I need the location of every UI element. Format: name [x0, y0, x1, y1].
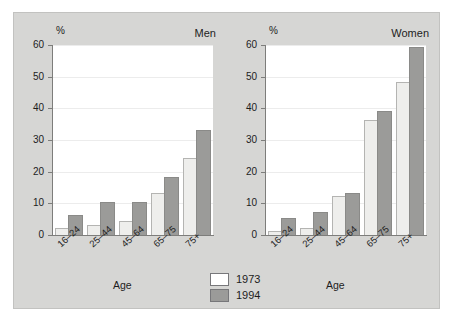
y-axis-tick-label: 30	[22, 134, 44, 145]
gridline	[53, 140, 213, 141]
gridline	[266, 77, 426, 78]
legend-label-1994: 1994	[236, 289, 260, 301]
y-axis-tick	[48, 235, 52, 236]
bar-men-75+-1994	[196, 130, 211, 236]
panel-men: % Men Age 010203040506016–2425–4445–6465…	[14, 13, 226, 308]
y-axis-tick-label: 60	[22, 39, 44, 50]
legend: 1973 1994	[210, 271, 260, 303]
y-axis-tick-label: 20	[22, 166, 44, 177]
legend-item-1994: 1994	[210, 287, 260, 303]
y-axis-tick	[261, 235, 265, 236]
y-axis-tick	[261, 45, 265, 46]
plot-area-men	[53, 45, 213, 235]
panel-title-women: Women	[391, 27, 429, 39]
legend-item-1973: 1973	[210, 271, 260, 287]
y-axis-tick	[48, 140, 52, 141]
x-axis-title-women: Age	[326, 279, 345, 291]
chart-card: % Men Age 010203040506016–2425–4445–6465…	[13, 12, 440, 309]
y-axis-tick	[261, 172, 265, 173]
y-axis-tick	[48, 172, 52, 173]
y-axis-tick	[48, 45, 52, 46]
gridline	[53, 108, 213, 109]
y-axis-tick-label: 50	[235, 71, 257, 82]
y-axis-tick-label: 50	[22, 71, 44, 82]
y-axis-tick	[261, 108, 265, 109]
y-axis-tick	[48, 77, 52, 78]
y-axis-tick	[261, 77, 265, 78]
y-axis-tick-label: 10	[235, 197, 257, 208]
y-axis-unit-women: %	[269, 25, 278, 36]
y-axis-tick-label: 0	[235, 229, 257, 240]
y-axis-tick-label: 40	[22, 102, 44, 113]
y-axis-spine-women	[265, 45, 266, 236]
x-axis-title-men: Age	[113, 279, 132, 291]
y-axis-tick	[48, 108, 52, 109]
panel-women: % Women Age 010203040506016–2425–4445–64…	[238, 13, 439, 308]
y-axis-tick-label: 10	[22, 197, 44, 208]
y-axis-tick-label: 0	[22, 229, 44, 240]
y-axis-tick-label: 40	[235, 102, 257, 113]
plot-area-women	[266, 45, 426, 235]
y-axis-tick-label: 30	[235, 134, 257, 145]
gridline	[53, 45, 213, 46]
y-axis-tick-label: 60	[235, 39, 257, 50]
figure: % Men Age 010203040506016–2425–4445–6465…	[0, 0, 452, 327]
gridline	[266, 45, 426, 46]
panel-title-men: Men	[195, 27, 216, 39]
y-axis-unit-men: %	[56, 25, 65, 36]
legend-swatch-1973-icon	[210, 273, 229, 286]
bar-women-6575-1994	[377, 111, 392, 236]
bar-women-75+-1994	[409, 47, 424, 235]
legend-swatch-1994-icon	[210, 289, 229, 302]
gridline	[53, 77, 213, 78]
y-axis-tick	[48, 203, 52, 204]
legend-label-1973: 1973	[236, 273, 260, 285]
y-axis-tick-label: 20	[235, 166, 257, 177]
y-axis-tick	[261, 140, 265, 141]
y-axis-tick	[261, 203, 265, 204]
y-axis-spine-men	[52, 45, 53, 236]
